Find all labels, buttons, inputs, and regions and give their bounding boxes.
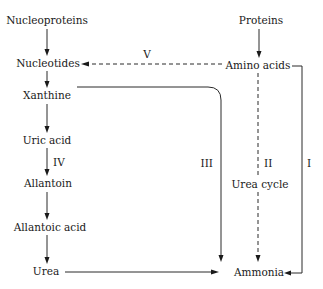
arrow-proteins-amino-acids — [257, 29, 262, 58]
arrow-nucleoproteins-nucleotides — [45, 29, 50, 56]
arrow-xanthine-uric-acid — [45, 104, 50, 133]
arrow-pathway-iii — [77, 87, 224, 262]
nitrogen-metabolism-diagram: Nucleoproteins Nucleotides Xanthine Uric… — [0, 0, 323, 289]
arrow-nucleotides-xanthine — [45, 71, 50, 88]
arrow-urea-ammonia — [65, 270, 219, 275]
urea-cycle-label: Urea cycle — [232, 178, 289, 190]
arrow-uric-acid-allantoin-IV — [45, 148, 50, 176]
node-allantoic-acid: Allantoic acid — [13, 221, 87, 233]
node-nucleotides: Nucleotides — [16, 57, 80, 69]
node-uric-acid: Uric acid — [23, 134, 72, 146]
node-allantoin: Allantoin — [23, 177, 72, 189]
node-ammonia: Ammonia — [233, 266, 284, 278]
pathway-label-ii: II — [264, 157, 272, 169]
arrow-pathway-i — [284, 66, 302, 276]
arrow-pathway-ii — [256, 73, 261, 262]
arrow-pathway-v — [81, 62, 222, 67]
node-amino-acids: Amino acids — [225, 59, 291, 71]
pathway-label-i: I — [307, 157, 311, 169]
node-proteins: Proteins — [239, 14, 283, 26]
pathway-label-iv: IV — [53, 156, 65, 168]
node-xanthine: Xanthine — [23, 89, 71, 101]
arrow-allantoic-acid-urea — [45, 235, 50, 264]
arrow-allantoin-allantoic-acid — [45, 192, 50, 220]
node-urea: Urea — [33, 265, 59, 277]
pathway-label-v: V — [142, 48, 151, 60]
pathway-label-iii: III — [201, 157, 213, 169]
node-nucleoproteins: Nucleoproteins — [6, 14, 88, 26]
